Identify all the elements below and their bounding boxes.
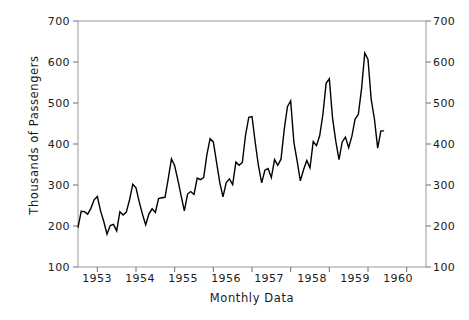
chart-canvas bbox=[0, 0, 469, 320]
data-series-line bbox=[78, 53, 384, 234]
x-axis-ticks bbox=[97, 267, 406, 272]
plot-frame bbox=[78, 21, 426, 267]
chart-figure: Thousands of Passengers Monthly Data 700… bbox=[0, 0, 469, 320]
